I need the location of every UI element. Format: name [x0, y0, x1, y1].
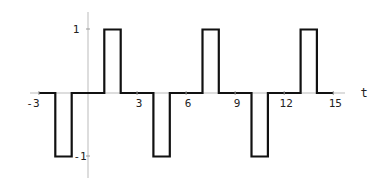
x-tick-label: 9 [234, 97, 241, 110]
y-tick-label-minus1: -1 [73, 150, 86, 163]
x-tick-label: 12 [280, 97, 293, 110]
x-tick-label: -3 [26, 97, 39, 110]
y-tick-label-1: 1 [73, 23, 80, 36]
x-tick-label: 6 [185, 97, 192, 110]
x-tick-label: 3 [136, 97, 143, 110]
x-tick-label: 15 [329, 97, 342, 110]
x-axis-label: t [360, 86, 367, 100]
chart-canvas: 1 -1 -33691215 t [0, 0, 386, 182]
